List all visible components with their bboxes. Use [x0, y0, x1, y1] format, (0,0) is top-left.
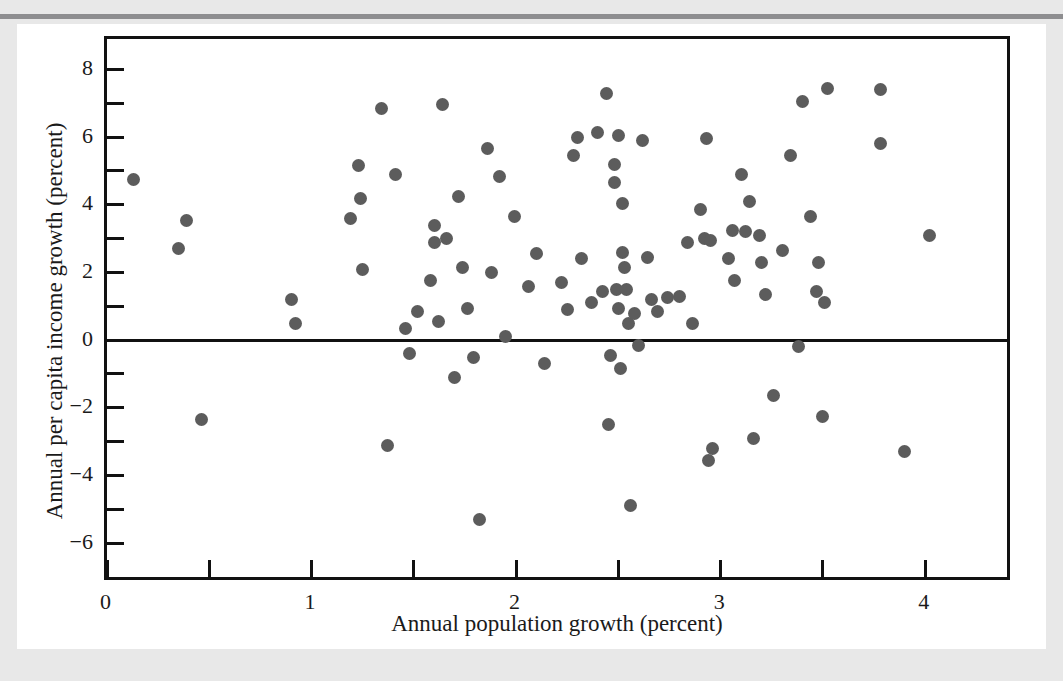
scatter-point — [624, 499, 637, 512]
scatter-point — [473, 513, 486, 526]
scatter-point — [352, 159, 365, 172]
y-axis-major-tick: 8 — [107, 68, 124, 71]
y-axis-major-tick: 6 — [107, 136, 124, 139]
scatter-point — [686, 317, 699, 330]
scatter-point — [608, 158, 621, 171]
y-axis-major-tick: −6 — [107, 542, 124, 545]
y-axis-minor-tick — [107, 237, 124, 240]
scatter-chart-figure: −6−4−202468 01234 Annual population grow… — [17, 24, 1046, 649]
scatter-point — [755, 256, 768, 269]
scatter-point — [651, 305, 664, 318]
scatter-point — [706, 442, 719, 455]
y-axis-minor-tick — [107, 102, 124, 105]
scatter-point — [661, 291, 674, 304]
x-axis-major-tick: 3 — [719, 560, 722, 577]
scatter-point — [381, 439, 394, 452]
x-axis-major-tick: 2 — [515, 560, 518, 577]
scatter-point — [585, 296, 598, 309]
scatter-point — [485, 266, 498, 279]
scatter-point — [481, 142, 494, 155]
scatter-point — [612, 129, 625, 142]
scatter-point — [567, 149, 580, 162]
scatter-point — [403, 347, 416, 360]
scatter-point — [704, 234, 717, 247]
scatter-point — [632, 339, 645, 352]
x-axis-major-tick: 0 — [106, 560, 109, 577]
x-axis-minor-tick — [208, 560, 211, 577]
scatter-point — [600, 87, 613, 100]
scatter-point — [753, 229, 766, 242]
page-top-rule — [0, 14, 1063, 19]
scatter-point — [538, 357, 551, 370]
y-axis-tick-label: −6 — [70, 529, 93, 555]
scatter-point — [616, 197, 629, 210]
scatter-point — [448, 371, 461, 384]
y-axis-tick-label: −4 — [70, 461, 93, 487]
y-axis-major-tick: −4 — [107, 474, 124, 477]
y-axis-major-tick: −2 — [107, 406, 124, 409]
scatter-point — [508, 210, 521, 223]
scatter-point — [354, 192, 367, 205]
y-axis-major-tick: 2 — [107, 271, 124, 274]
scatter-point — [816, 410, 829, 423]
scatter-point — [681, 236, 694, 249]
y-axis-minor-tick — [107, 508, 124, 511]
scatter-point — [796, 95, 809, 108]
scatter-point — [440, 232, 453, 245]
scatter-point — [812, 256, 825, 269]
scatter-point — [602, 418, 615, 431]
scatter-point — [618, 261, 631, 274]
scatter-point — [821, 82, 834, 95]
scatter-point — [428, 236, 441, 249]
x-axis-label: Annual population growth (percent) — [104, 611, 1010, 637]
scatter-point — [608, 176, 621, 189]
scatter-point — [172, 242, 185, 255]
scatter-point — [614, 362, 627, 375]
scatter-point — [289, 317, 302, 330]
x-axis-minor-tick — [821, 560, 824, 577]
scatter-point — [452, 190, 465, 203]
scatter-point — [522, 280, 535, 293]
scatter-point — [604, 349, 617, 362]
scatter-point — [739, 225, 752, 238]
paper-sheet: −6−4−202468 01234 Annual population grow… — [17, 24, 1046, 649]
y-axis-label: Annual per capita income growth (percent… — [42, 61, 68, 581]
scatter-point — [743, 195, 756, 208]
scatter-point — [596, 285, 609, 298]
scatter-point — [424, 274, 437, 287]
y-axis-tick-label: 0 — [82, 326, 93, 352]
scatter-point — [616, 246, 629, 259]
scatter-point — [375, 102, 388, 115]
scatter-point — [923, 229, 936, 242]
y-axis-major-tick: 0 — [107, 339, 124, 342]
scatter-point — [673, 290, 686, 303]
y-axis-minor-tick — [107, 440, 124, 443]
scatter-point — [411, 305, 424, 318]
scatter-point — [180, 214, 193, 227]
y-axis-major-tick: 4 — [107, 203, 124, 206]
y-axis-tick-label: 4 — [82, 190, 93, 216]
scatter-point — [898, 445, 911, 458]
plot-area-frame: −6−4−202468 01234 — [104, 36, 1010, 580]
scatter-point — [784, 149, 797, 162]
y-axis-tick-label: 6 — [82, 123, 93, 149]
scatter-point — [555, 276, 568, 289]
scatter-point — [804, 210, 817, 223]
scatter-point — [356, 263, 369, 276]
y-axis-minor-tick — [107, 305, 124, 308]
scatter-point — [776, 244, 789, 257]
y-axis-tick-label: −2 — [70, 393, 93, 419]
scatter-point — [767, 389, 780, 402]
scatter-point — [612, 302, 625, 315]
y-axis-tick-label: 8 — [82, 55, 93, 81]
zero-reference-line — [107, 339, 1007, 342]
scatter-point — [493, 170, 506, 183]
scatter-point — [428, 219, 441, 232]
scatter-point — [694, 203, 707, 216]
scatter-point — [747, 432, 760, 445]
scatter-point — [575, 252, 588, 265]
scatter-point — [285, 293, 298, 306]
scatter-point — [389, 168, 402, 181]
x-axis-major-tick: 1 — [310, 560, 313, 577]
scatter-point — [467, 351, 480, 364]
